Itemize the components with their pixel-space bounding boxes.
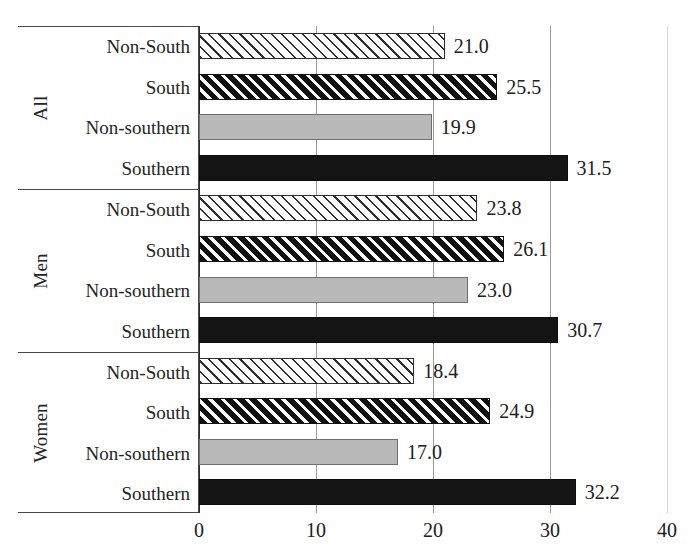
bar-value-label: 31.5 xyxy=(568,155,612,181)
x-tick-label-10: 10 xyxy=(306,519,326,542)
bar-row: 26.1 xyxy=(199,229,667,270)
bar-chart: 21.025.519.931.523.826.123.030.718.424.9… xyxy=(0,0,699,559)
bar-value-label: 23.8 xyxy=(477,195,521,221)
category-labels: Non-SouthSouthNon-southernSouthern xyxy=(64,190,190,351)
bar-all-southern xyxy=(199,155,568,181)
x-tick-label-30: 30 xyxy=(540,519,560,542)
bar-value-label: 18.4 xyxy=(414,358,458,384)
bar-men-south xyxy=(199,236,504,262)
group-block-all: AllNon-SouthSouthNon-southernSouthern xyxy=(18,27,198,189)
bar-all-south xyxy=(199,74,497,100)
bar-value-label: 26.1 xyxy=(504,236,548,262)
bar-value-label: 17.0 xyxy=(398,439,442,465)
bar-value-label: 23.0 xyxy=(468,277,512,303)
bar-row: 19.9 xyxy=(199,107,667,148)
x-tick-label-40: 40 xyxy=(657,519,677,542)
x-tick-label-20: 20 xyxy=(423,519,443,542)
bar-row: 25.5 xyxy=(199,67,667,108)
category-label-southern: Southern xyxy=(121,474,190,515)
bar-row: 23.0 xyxy=(199,270,667,311)
category-label-southern: Southern xyxy=(121,312,190,353)
bar-row: 21.0 xyxy=(199,26,667,67)
category-label-south: South xyxy=(146,231,190,272)
bar-row: 18.4 xyxy=(199,351,667,392)
group-block-women: WomenNon-SouthSouthNon-southernSouthern xyxy=(18,352,198,514)
bar-value-label: 21.0 xyxy=(445,33,489,59)
bar-row: 31.5 xyxy=(199,148,667,189)
group-block-men: MenNon-SouthSouthNon-southernSouthern xyxy=(18,189,198,351)
bar-women-southern xyxy=(199,479,576,505)
category-label-south: South xyxy=(146,68,190,109)
bar-all-non-south xyxy=(199,33,445,59)
category-label-non-southern: Non-southern xyxy=(86,108,190,149)
plot-area: 21.025.519.931.523.826.123.030.718.424.9… xyxy=(199,26,667,513)
group-name-label: Women xyxy=(18,353,64,514)
category-label-southern: Southern xyxy=(121,149,190,190)
category-labels: Non-SouthSouthNon-southernSouthern xyxy=(64,353,190,514)
bar-row: 32.2 xyxy=(199,472,667,513)
category-label-non-south: Non-South xyxy=(107,190,190,231)
bar-women-non-southern xyxy=(199,439,398,465)
group-name-label: All xyxy=(18,27,64,189)
bar-men-non-south xyxy=(199,195,477,221)
bar-value-label: 24.9 xyxy=(490,398,534,424)
x-tick-label-0: 0 xyxy=(194,519,204,542)
bar-women-non-south xyxy=(199,358,414,384)
bar-men-non-southern xyxy=(199,277,468,303)
category-labels: Non-SouthSouthNon-southernSouthern xyxy=(64,27,190,189)
bar-value-label: 25.5 xyxy=(497,74,541,100)
category-label-non-southern: Non-southern xyxy=(86,434,190,475)
category-label-south: South xyxy=(146,393,190,434)
bar-row: 17.0 xyxy=(199,432,667,473)
bar-row: 30.7 xyxy=(199,310,667,351)
category-label-non-southern: Non-southern xyxy=(86,271,190,312)
bar-row: 24.9 xyxy=(199,391,667,432)
bar-all-non-southern xyxy=(199,114,432,140)
group-name-text: Men xyxy=(30,253,52,288)
bar-value-label: 32.2 xyxy=(576,479,620,505)
group-name-label: Men xyxy=(18,190,64,351)
bar-value-label: 19.9 xyxy=(432,114,476,140)
bar-women-south xyxy=(199,398,490,424)
gridline-40 xyxy=(667,26,668,513)
category-label-non-south: Non-South xyxy=(107,353,190,394)
group-name-text: Women xyxy=(30,404,52,464)
group-name-text: All xyxy=(30,96,52,121)
bar-men-southern xyxy=(199,317,558,343)
category-label-non-south: Non-South xyxy=(107,27,190,68)
category-label-panel: AllNon-SouthSouthNon-southernSouthernMen… xyxy=(18,26,199,513)
bar-value-label: 30.7 xyxy=(558,317,602,343)
bar-row: 23.8 xyxy=(199,188,667,229)
